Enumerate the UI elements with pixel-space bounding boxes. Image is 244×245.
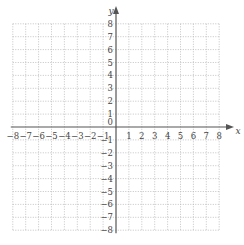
x-tick-label: 6 [191, 131, 196, 141]
x-tick-label: 1 [126, 131, 131, 141]
y-tick-label: −2 [100, 148, 113, 158]
axes [11, 6, 234, 233]
tick-labels: xy−8−7−6−5−4−3−2−11234567887654321−1−2−3… [7, 6, 241, 235]
y-tick-label: 6 [108, 45, 113, 55]
y-tick-label: 3 [108, 83, 113, 93]
y-tick-label: −8 [100, 225, 113, 235]
x-tick-label: −6 [32, 131, 45, 141]
x-axis-label: x [235, 126, 240, 136]
y-tick-label: −3 [100, 161, 113, 171]
y-tick-label: 4 [108, 70, 113, 80]
coordinate-plane: xy−8−7−6−5−4−3−2−11234567887654321−1−2−3… [0, 0, 244, 245]
y-tick-label: −1 [100, 135, 113, 145]
y-tick-label: 8 [108, 19, 113, 29]
x-tick-label: −8 [7, 131, 20, 141]
y-axis-label: y [107, 6, 114, 16]
x-tick-label: −4 [58, 131, 71, 141]
x-tick-label: −5 [45, 131, 58, 141]
x-tick-label: −3 [71, 131, 84, 141]
x-tick-label: 5 [178, 131, 183, 141]
y-tick-label: 7 [108, 32, 113, 42]
x-tick-label: 7 [204, 131, 209, 141]
x-tick-label: −2 [84, 131, 97, 141]
x-tick-label: 3 [152, 131, 157, 141]
y-axis-arrow-icon [113, 6, 119, 14]
x-tick-label: 8 [216, 131, 221, 141]
x-tick-label: −7 [19, 131, 32, 141]
y-tick-label: 2 [108, 96, 113, 106]
y-tick-label: 5 [108, 58, 113, 68]
x-axis-arrow-icon [226, 124, 234, 130]
y-tick-label: −4 [100, 174, 113, 184]
x-tick-label: 4 [165, 131, 170, 141]
y-tick-label: −6 [100, 199, 113, 209]
y-tick-label: −5 [100, 187, 113, 197]
x-tick-label: 2 [139, 131, 144, 141]
origin-label: 0 [108, 117, 113, 127]
y-tick-label: −7 [100, 212, 113, 222]
